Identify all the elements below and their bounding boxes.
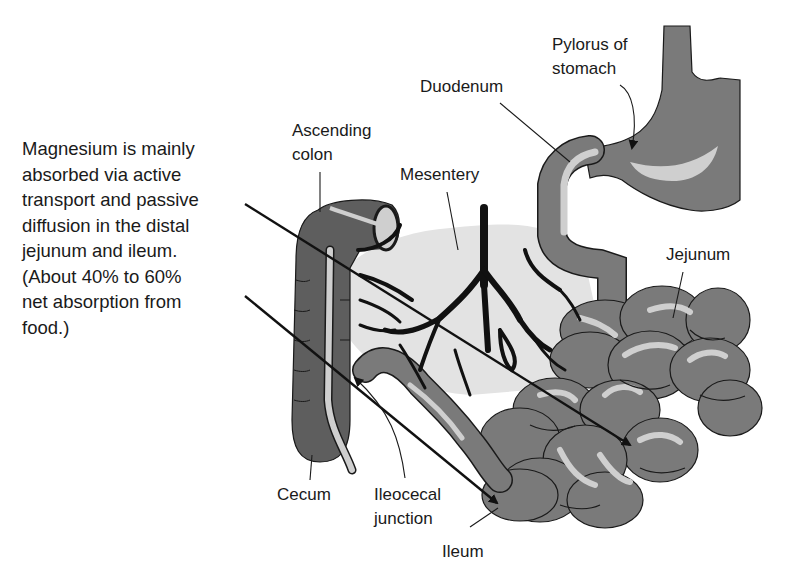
label-ascending-colon-line2: colon	[292, 144, 333, 165]
label-pylorus-line1: Pylorus of	[552, 34, 628, 55]
description-line: (About 40% to 60%	[22, 264, 199, 290]
magnesium-absorption-description: Magnesium is mainly absorbed via active …	[22, 136, 199, 340]
label-ileum: Ileum	[442, 541, 484, 562]
label-cecum: Cecum	[277, 484, 331, 505]
diagram-canvas: Magnesium is mainly absorbed via active …	[0, 0, 787, 578]
description-line: net absorption from	[22, 289, 199, 315]
description-line: transport and passive	[22, 187, 199, 213]
label-ascending-colon-line1: Ascending	[292, 120, 371, 141]
description-line: absorbed via active	[22, 162, 199, 188]
label-pylorus-line2: stomach	[552, 58, 616, 79]
label-mesentery: Mesentery	[400, 164, 479, 185]
description-line: diffusion in the distal	[22, 213, 199, 239]
label-ileocecal-line1: Ileocecal	[374, 484, 441, 505]
label-jejunum: Jejunum	[666, 244, 730, 265]
description-line: Magnesium is mainly	[22, 136, 199, 162]
label-duodenum: Duodenum	[420, 76, 503, 97]
description-line: jejunum and ileum.	[22, 238, 199, 264]
description-line: food.)	[22, 315, 199, 341]
label-ileocecal-line2: junction	[374, 508, 433, 529]
